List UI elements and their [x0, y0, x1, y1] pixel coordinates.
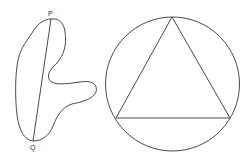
label-p: P: [48, 10, 53, 17]
diagram-canvas: P Q: [0, 0, 251, 158]
label-q: Q: [30, 144, 36, 152]
inscribed-triangle: [116, 17, 230, 118]
chord-pq: [33, 19, 51, 141]
circumscribed-circle: [106, 17, 240, 151]
irregular-closed-curve: [16, 19, 97, 141]
